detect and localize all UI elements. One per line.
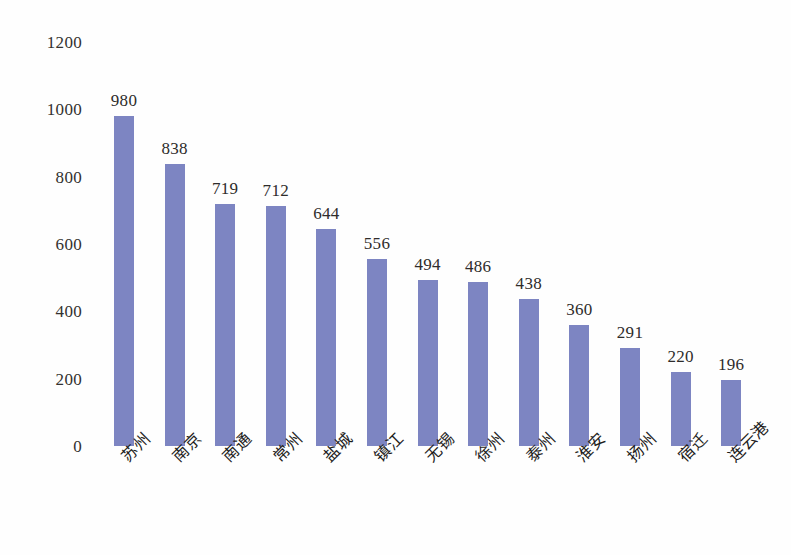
- bar[interactable]: [721, 380, 741, 446]
- bar-value-label: 980: [111, 92, 137, 109]
- bar-value-label: 486: [465, 258, 491, 275]
- bar-value-label: 644: [313, 205, 339, 222]
- bar-chart: 120010008006004002000 980苏州838南京719南通712…: [0, 0, 791, 555]
- bar[interactable]: [569, 325, 589, 446]
- bar-value-label: 196: [718, 356, 744, 373]
- bar[interactable]: [620, 348, 640, 446]
- bar-value-label: 220: [667, 348, 693, 365]
- bar[interactable]: [418, 280, 438, 446]
- bar-value-label: 360: [566, 301, 592, 318]
- bar-value-label: 712: [263, 182, 289, 199]
- bar-value-label: 291: [617, 324, 643, 341]
- bar-value-label: 719: [212, 180, 238, 197]
- bar[interactable]: [519, 299, 539, 446]
- bar[interactable]: [266, 206, 286, 446]
- bar[interactable]: [215, 204, 235, 446]
- bar-value-label: 556: [364, 235, 390, 252]
- bar-value-label: 494: [414, 256, 440, 273]
- bar[interactable]: [367, 259, 387, 446]
- bar[interactable]: [468, 282, 488, 446]
- bar[interactable]: [671, 372, 691, 446]
- bar[interactable]: [165, 164, 185, 446]
- bar-value-label: 838: [161, 140, 187, 157]
- plot-area: 980苏州838南京719南通712常州644盐城556镇江494无锡486徐州…: [0, 0, 791, 555]
- bar[interactable]: [114, 116, 134, 446]
- bar-value-label: 438: [516, 275, 542, 292]
- bar[interactable]: [316, 229, 336, 446]
